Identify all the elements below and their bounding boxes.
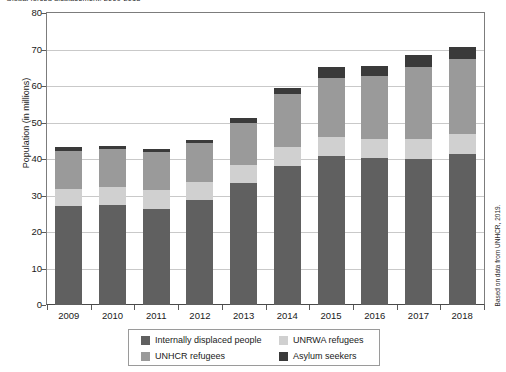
y-tick-label: 80 xyxy=(2,7,42,18)
bar-segment xyxy=(186,143,213,181)
bar-segment xyxy=(405,139,432,159)
y-tick-label: 30 xyxy=(2,190,42,201)
legend-item: UNHCR refugees xyxy=(141,351,225,361)
y-tick-mark xyxy=(41,159,46,160)
bar-segment xyxy=(143,152,170,190)
bar-segment xyxy=(230,165,257,183)
bar-segment xyxy=(99,149,126,187)
bar-segment xyxy=(361,76,388,139)
legend-item: Asylum seekers xyxy=(279,351,357,361)
x-tick-mark xyxy=(266,305,267,310)
bar-segment xyxy=(449,59,476,133)
bar-segment xyxy=(361,158,388,305)
x-tick-label: 2014 xyxy=(265,310,309,321)
y-tick-label: 20 xyxy=(2,226,42,237)
y-tick-label: 0 xyxy=(2,299,42,310)
bar-2018 xyxy=(449,47,476,305)
bar-2013 xyxy=(230,118,257,305)
x-tick-label: 2009 xyxy=(47,310,91,321)
bar-2014 xyxy=(274,88,301,305)
bar-segment xyxy=(274,166,301,305)
bar-segment xyxy=(55,151,82,189)
y-tick-mark xyxy=(41,123,46,124)
y-tick-label: 10 xyxy=(2,263,42,274)
bar-segment xyxy=(230,183,257,305)
x-tick-mark xyxy=(484,305,485,310)
legend-item: Internally displaced people xyxy=(141,335,262,345)
x-tick-label: 2011 xyxy=(134,310,178,321)
x-tick-mark xyxy=(134,305,135,310)
legend-swatch-icon xyxy=(141,352,150,361)
bar-segment xyxy=(318,137,345,156)
bar-segment xyxy=(230,123,257,166)
legend-label: UNHCR refugees xyxy=(155,351,225,361)
y-tick-mark xyxy=(41,232,46,233)
bar-segment xyxy=(143,190,170,208)
bar-series-layer xyxy=(47,13,484,305)
bar-2011 xyxy=(143,149,170,305)
bar-segment xyxy=(99,187,126,205)
bar-2016 xyxy=(361,66,388,305)
bar-segment xyxy=(405,67,432,140)
chart-title: Global forced displacement, 2009-2018 xyxy=(6,0,141,1)
x-tick-mark xyxy=(353,305,354,310)
bar-segment xyxy=(143,209,170,305)
y-tick-mark xyxy=(41,86,46,87)
x-tick-label: 2017 xyxy=(396,310,440,321)
y-tick-mark xyxy=(41,196,46,197)
bar-segment xyxy=(449,47,476,60)
x-tick-mark xyxy=(91,305,92,310)
bar-segment xyxy=(55,189,82,207)
legend-swatch-icon xyxy=(279,336,288,345)
bar-segment xyxy=(318,67,345,79)
x-tick-mark xyxy=(397,305,398,310)
legend-swatch-icon xyxy=(141,336,150,345)
bar-segment xyxy=(274,147,301,166)
bar-2009 xyxy=(55,147,82,305)
bar-segment xyxy=(99,205,126,305)
y-tick-label: 50 xyxy=(2,117,42,128)
x-tick-mark xyxy=(47,305,48,310)
bar-segment xyxy=(274,94,301,147)
source-note: Based on data from UNHCR, 2019. xyxy=(494,200,501,312)
bar-2012 xyxy=(186,140,213,305)
y-tick-label: 40 xyxy=(2,153,42,164)
bar-2017 xyxy=(405,55,432,305)
y-tick-mark xyxy=(41,269,46,270)
legend-swatch-icon xyxy=(279,352,288,361)
legend-label: Asylum seekers xyxy=(293,351,357,361)
legend-item: UNRWA refugees xyxy=(279,335,364,345)
y-tick-label: 60 xyxy=(2,80,42,91)
chart-page: Global forced displacement, 2009-2018 Po… xyxy=(0,0,506,372)
x-tick-label: 2018 xyxy=(440,310,484,321)
bar-segment xyxy=(361,139,388,158)
bar-segment xyxy=(449,134,476,154)
bar-segment xyxy=(318,156,345,305)
bar-2015 xyxy=(318,67,345,305)
bar-2010 xyxy=(99,146,126,305)
x-tick-label: 2010 xyxy=(91,310,135,321)
x-tick-mark xyxy=(309,305,310,310)
x-tick-label: 2016 xyxy=(353,310,397,321)
bar-segment xyxy=(361,66,388,76)
bar-segment xyxy=(405,159,432,305)
bar-segment xyxy=(186,200,213,305)
x-tick-label: 2013 xyxy=(222,310,266,321)
x-tick-label: 2015 xyxy=(309,310,353,321)
x-tick-mark xyxy=(222,305,223,310)
bar-segment xyxy=(186,182,213,200)
bar-segment xyxy=(405,55,432,66)
legend-label: Internally displaced people xyxy=(155,335,262,345)
x-tick-mark xyxy=(440,305,441,310)
bar-segment xyxy=(55,206,82,305)
chart-legend: Internally displaced peopleUNRWA refugee… xyxy=(128,329,380,366)
bar-segment xyxy=(449,154,476,305)
y-tick-label: 70 xyxy=(2,44,42,55)
x-tick-label: 2012 xyxy=(178,310,222,321)
bar-segment xyxy=(318,78,345,137)
y-tick-mark xyxy=(41,50,46,51)
legend-label: UNRWA refugees xyxy=(293,335,364,345)
x-tick-mark xyxy=(178,305,179,310)
y-tick-mark xyxy=(41,13,46,14)
y-tick-mark xyxy=(41,305,46,306)
